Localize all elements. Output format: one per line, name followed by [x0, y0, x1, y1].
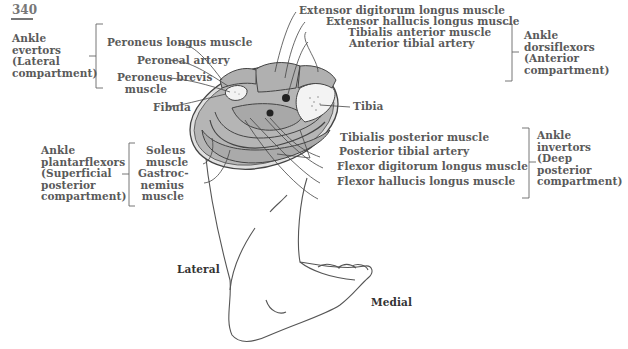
cross-section: [177, 47, 352, 187]
orientation-medial: Medial: [371, 297, 412, 309]
label-posterior-tibial-artery: Posterior tibial artery: [339, 146, 469, 158]
label-peroneus-longus: Peroneus longus muscle: [107, 37, 252, 49]
label-flexor-digitorum-longus: Flexor digitorum longus muscle: [337, 161, 528, 173]
label-tibia: Tibia: [353, 101, 383, 113]
superficial-posterior-compartment-title: Ankle plantarflexors (Superficial poster…: [41, 145, 126, 203]
anterior-compartment-title: Ankle dorsiflexors (Anterior compartment…: [524, 30, 609, 76]
label-soleus: Soleus muscle: [146, 145, 184, 168]
label-peroneus-brevis: Peroneus brevis muscle: [117, 72, 167, 95]
label-tibialis-posterior: Tibialis posterior muscle: [340, 132, 489, 144]
label-peroneal-artery: Peroneal artery: [137, 55, 230, 67]
orientation-lateral: Lateral: [177, 264, 220, 276]
lateral-compartment-title: Ankle evertors (Lateral compartment): [12, 33, 97, 79]
deep-posterior-compartment-title: Ankle invertors (Deep posterior compartm…: [537, 130, 622, 188]
label-flexor-hallucis-longus: Flexor hallucis longus muscle: [337, 176, 515, 188]
label-gastrocnemius: Gastroc- nemius muscle: [138, 168, 184, 203]
label-fibula: Fibula: [153, 102, 191, 114]
label-anterior-tibial-artery: Anterior tibial artery: [349, 38, 474, 50]
